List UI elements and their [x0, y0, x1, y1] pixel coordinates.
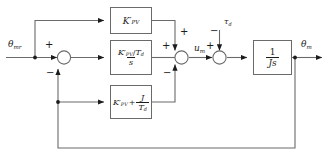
feedback-inertia-fraction: J Td [136, 93, 149, 112]
label-reference-input: θmr [8, 40, 21, 49]
feedforward-proportional-block: K′PV [110, 7, 152, 34]
junction-dot-input [33, 56, 37, 60]
plant-expression: 1 Js [266, 47, 278, 68]
integral-time-constant-subscript: d [141, 51, 144, 57]
output-subscript: m [306, 44, 311, 50]
sign-control-summer-positive-left: + [162, 41, 170, 51]
feedback-gain-expression: K′PV+ J Td [113, 93, 149, 112]
control-signal-symbol: u [194, 43, 200, 53]
sign-disturbance-summer-positive: + [206, 41, 214, 51]
feedback-gain-subscript: PV [121, 101, 128, 107]
integral-numerator: K′PV/Td [116, 48, 146, 57]
sign-error-summer-negative: − [46, 68, 54, 78]
feedback-time-constant-subscript: d [144, 106, 147, 112]
feedback-inertia-denominator: Td [136, 102, 149, 112]
label-control-signal: um [194, 44, 205, 53]
proportional-gain-symbol: K [123, 16, 130, 26]
control-signal-subscript: m [200, 48, 205, 54]
integral-denominator: s [127, 57, 135, 67]
summing-junction-control [175, 51, 188, 64]
sign-disturbance-summer-negative: − [210, 26, 218, 36]
sign-control-summer-positive-top: + [180, 27, 188, 37]
sign-control-summer-negative-bottom: − [163, 68, 171, 78]
sign-error-summer-positive: + [45, 40, 53, 50]
diagram-wiring [0, 0, 331, 162]
junction-dot-output-tap [293, 56, 297, 60]
integral-block-expression: K′PV/Td s [116, 48, 146, 67]
reference-input-subscript: mr [13, 44, 21, 50]
summing-junction-error [57, 51, 70, 64]
disturbance-subscript: d [228, 21, 231, 27]
junction-dot-feedback-split [56, 100, 60, 104]
integral-block: K′PV/Td s [110, 40, 152, 75]
feedback-inertia-numerator: J [139, 93, 146, 102]
proportional-gain-subscript: PV [131, 19, 139, 25]
label-disturbance: τd [224, 18, 232, 26]
plant-block: 1 Js [253, 40, 292, 75]
feedback-gain-block: K′PV+ J Td [110, 85, 152, 119]
summing-junction-disturbance [213, 51, 226, 64]
proportional-block-expression: K′PV [123, 16, 140, 26]
label-output: θm [301, 40, 312, 49]
plant-numerator: 1 [268, 47, 278, 57]
feedback-gain-plus: + [128, 98, 137, 107]
block-diagram: K′PV K′PV/Td s K′PV+ J Td 1 Js θmr [0, 0, 331, 162]
integral-gain-subscript: PV [126, 51, 133, 57]
plant-denominator: Js [266, 57, 278, 68]
